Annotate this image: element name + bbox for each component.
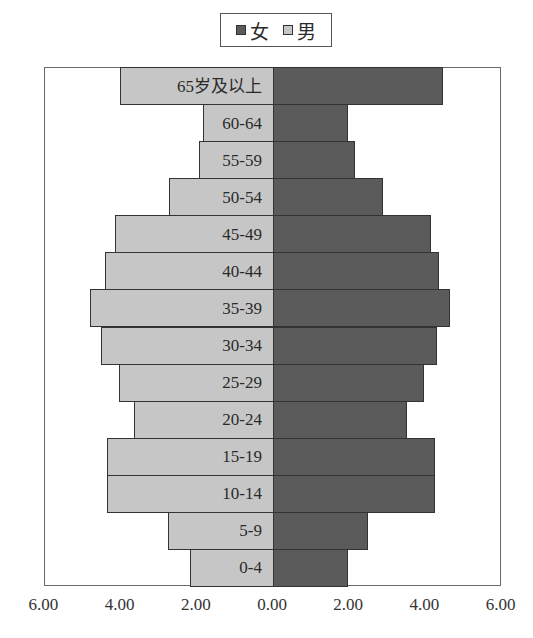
bar-female (273, 327, 437, 365)
age-group-label: 40-44 (222, 263, 262, 280)
bar-female (273, 67, 443, 105)
bar-female (273, 252, 439, 290)
legend-label-male: 男 (297, 17, 316, 44)
bar-female (273, 178, 383, 216)
bar-female (273, 549, 348, 587)
legend: 女 男 (220, 13, 332, 47)
bar-female (273, 512, 368, 550)
age-group-label: 35-39 (222, 300, 262, 317)
plot-area: 65岁及以上60-6455-5950-5445-4940-4435-3930-3… (44, 67, 501, 586)
legend-swatch-female (236, 25, 246, 35)
age-group-label: 55-59 (222, 152, 262, 169)
bar-female (273, 475, 435, 513)
age-group-label: 5-9 (239, 522, 262, 539)
bar-female (273, 215, 431, 253)
age-group-label: 30-34 (222, 337, 262, 354)
age-group-label: 0-4 (239, 559, 262, 576)
age-group-label: 20-24 (222, 411, 262, 428)
age-group-label: 45-49 (222, 226, 262, 243)
bar-female (273, 364, 424, 402)
legend-item-male: 男 (283, 17, 316, 44)
bar-female (273, 104, 348, 142)
legend-swatch-male (283, 25, 293, 35)
x-tick-label: 4.00 (410, 595, 440, 615)
bar-female (273, 438, 435, 476)
x-tick-label: 2.00 (181, 595, 211, 615)
legend-item-female: 女 (236, 17, 269, 44)
x-tick-label: 2.00 (333, 595, 363, 615)
x-tick-label: 0.00 (257, 595, 287, 615)
x-tick-label: 6.00 (486, 595, 516, 615)
legend-label-female: 女 (250, 17, 269, 44)
bar-female (273, 141, 355, 179)
age-group-label: 60-64 (222, 115, 262, 132)
age-group-label: 50-54 (222, 189, 262, 206)
age-group-label: 25-29 (222, 374, 262, 391)
bar-female (273, 401, 407, 439)
x-tick-label: 6.00 (29, 595, 59, 615)
x-tick-label: 4.00 (105, 595, 135, 615)
age-group-label: 15-19 (222, 448, 262, 465)
bar-female (273, 289, 450, 327)
age-group-label: 10-14 (222, 485, 262, 502)
age-group-label: 65岁及以上 (177, 78, 262, 95)
